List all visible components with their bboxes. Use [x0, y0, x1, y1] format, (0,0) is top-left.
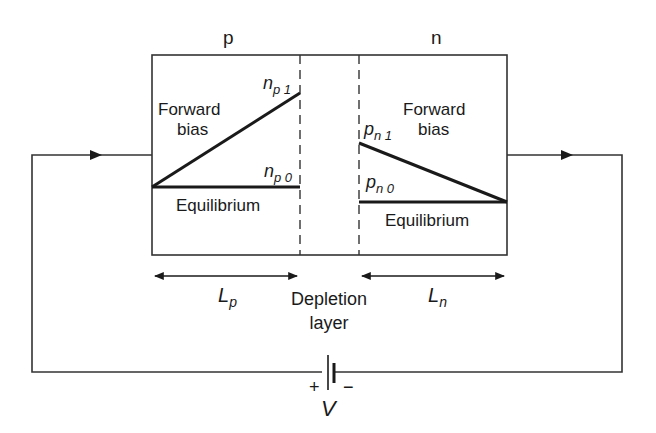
current-arrow-right-icon [561, 150, 573, 160]
n-region-label: n [431, 27, 442, 48]
pn-junction-diagram: + − V p n Forward bias np 1 np 0 Equilib… [0, 0, 656, 433]
depletion-label-line1: Depletion [291, 289, 367, 309]
battery-icon [328, 355, 334, 390]
p-bias-label: bias [177, 120, 208, 139]
n-bias-label: bias [418, 120, 449, 139]
depletion-label-line2: layer [309, 313, 348, 333]
lp-label: Lp [218, 284, 237, 310]
current-arrow-left-icon [90, 150, 102, 160]
n-forward-label: Forward [403, 100, 465, 119]
p-forward-label: Forward [158, 100, 220, 119]
battery-plus: + [309, 377, 320, 397]
voltage-label: V [321, 396, 338, 421]
ln-label: Ln [428, 284, 447, 310]
battery-minus: − [343, 377, 354, 397]
n-equilibrium-label: Equilibrium [385, 211, 469, 230]
p-region-label: p [223, 27, 234, 48]
p-equilibrium-label: Equilibrium [176, 196, 260, 215]
